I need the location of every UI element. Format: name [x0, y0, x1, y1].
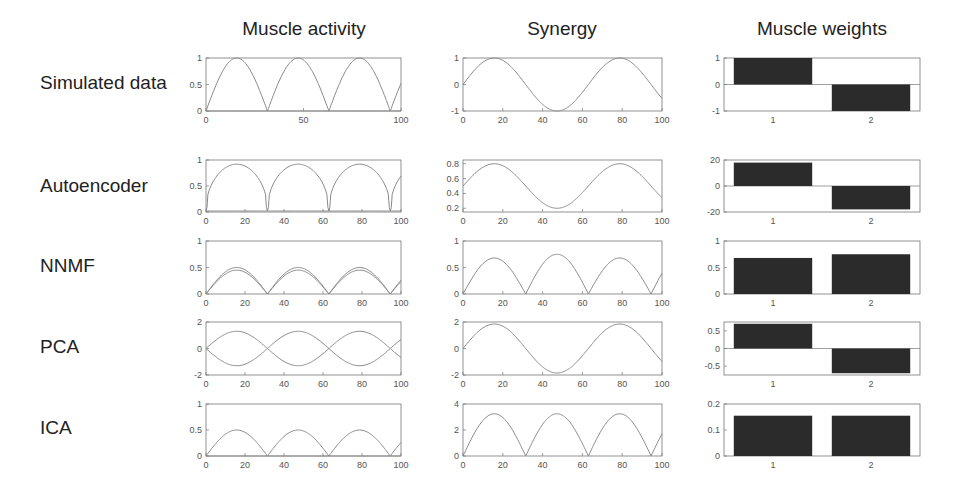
y-tick-label: 1 [715, 53, 720, 63]
y-tick-label: 0.5 [189, 425, 202, 435]
x-tick-label: 40 [279, 460, 289, 470]
axes-box [463, 404, 662, 456]
x-tick-label: 1 [770, 298, 775, 308]
x-tick-label: 80 [357, 216, 367, 226]
bar-1 [734, 324, 812, 349]
x-tick-label: 40 [538, 298, 548, 308]
y-tick-label: 0 [454, 451, 459, 461]
bar-1 [734, 258, 812, 294]
y-tick-label: 1 [454, 236, 459, 246]
x-tick-label: 80 [617, 379, 627, 389]
y-tick-label: 1 [197, 399, 202, 409]
x-tick-label: 20 [240, 460, 250, 470]
subplot-pca-muscle-weights: -0.500.512 [704, 322, 920, 389]
x-tick-label: 2 [868, 379, 873, 389]
subplot-simulated-data-muscle-weights: -10112 [712, 53, 920, 125]
x-tick-label: 2 [868, 298, 873, 308]
x-tick-label: 1 [770, 379, 775, 389]
subplot-pca-synergy: -202020406080100 [451, 317, 670, 389]
x-tick-label: 80 [617, 216, 627, 226]
y-tick-label: 0.5 [189, 181, 202, 191]
y-tick-label: 1 [197, 155, 202, 165]
axes-box [463, 58, 662, 111]
y-tick-label: 0.8 [446, 159, 459, 169]
y-tick-label: 0 [715, 451, 720, 461]
subplot-ica-synergy: 024020406080100 [454, 399, 670, 470]
x-tick-label: 100 [654, 216, 669, 226]
y-tick-label: 0.5 [189, 80, 202, 90]
x-tick-label: 50 [298, 115, 308, 125]
x-tick-label: 80 [617, 298, 627, 308]
x-tick-label: 100 [654, 379, 669, 389]
bar-1 [734, 58, 812, 85]
y-tick-label: 0 [454, 344, 459, 354]
bar-2 [832, 349, 910, 374]
y-tick-label: 1 [197, 236, 202, 246]
y-tick-label: 2 [454, 425, 459, 435]
bar-2 [832, 254, 910, 294]
subplot-autoencoder-muscle-activity: 00.51020406080100 [189, 155, 408, 226]
y-tick-label: 0.4 [446, 188, 459, 198]
x-tick-label: 0 [460, 216, 465, 226]
x-tick-label: 20 [498, 115, 508, 125]
subplot-nnmf-muscle-activity: 00.51020406080100 [189, 236, 408, 308]
x-tick-label: 1 [770, 115, 775, 125]
axes-box [463, 241, 662, 294]
bar-2 [832, 416, 910, 456]
x-tick-label: 20 [240, 298, 250, 308]
x-tick-label: 80 [357, 460, 367, 470]
y-tick-label: 0 [197, 106, 202, 116]
y-tick-label: 1 [715, 236, 720, 246]
x-tick-label: 0 [203, 298, 208, 308]
x-tick-label: 100 [654, 298, 669, 308]
x-tick-label: 2 [868, 216, 873, 226]
y-tick-label: 1 [197, 53, 202, 63]
x-tick-label: 80 [617, 115, 627, 125]
y-tick-label: -2 [194, 370, 202, 380]
y-tick-label: -0.5 [704, 361, 720, 371]
x-tick-label: 0 [203, 216, 208, 226]
x-tick-label: 60 [577, 379, 587, 389]
x-tick-label: 20 [240, 216, 250, 226]
x-tick-label: 0 [460, 379, 465, 389]
subplot-pca-muscle-activity: -202020406080100 [194, 317, 409, 389]
x-tick-label: 100 [393, 460, 408, 470]
y-tick-label: -1 [712, 106, 720, 116]
y-tick-label: 0.5 [189, 263, 202, 273]
x-tick-label: 20 [498, 298, 508, 308]
x-tick-label: 40 [279, 298, 289, 308]
x-tick-label: 40 [538, 379, 548, 389]
x-tick-label: 60 [318, 216, 328, 226]
x-tick-label: 60 [318, 460, 328, 470]
y-tick-label: -20 [707, 207, 720, 217]
x-tick-label: 100 [654, 460, 669, 470]
y-tick-label: 0 [197, 451, 202, 461]
y-tick-label: 0.1 [707, 425, 720, 435]
x-tick-label: 100 [654, 115, 669, 125]
subplot-nnmf-synergy: 00.51020406080100 [446, 236, 669, 308]
x-tick-label: 100 [393, 379, 408, 389]
bar-2 [832, 85, 910, 112]
x-tick-label: 0 [460, 460, 465, 470]
x-tick-label: 0 [203, 115, 208, 125]
y-tick-label: 0 [197, 207, 202, 217]
x-tick-label: 20 [498, 379, 508, 389]
x-tick-label: 0 [460, 298, 465, 308]
y-tick-label: 0.5 [707, 326, 720, 336]
y-tick-label: 20 [710, 155, 720, 165]
x-tick-label: 60 [318, 379, 328, 389]
y-tick-label: 2 [197, 317, 202, 327]
bar-1 [734, 163, 812, 186]
subplot-autoencoder-muscle-weights: -2002012 [707, 155, 920, 226]
x-tick-label: 60 [577, 298, 587, 308]
y-tick-label: 0 [454, 289, 459, 299]
axes-box [206, 322, 401, 375]
x-tick-label: 80 [357, 379, 367, 389]
axes-box [206, 58, 401, 111]
y-tick-label: 0 [197, 344, 202, 354]
y-tick-label: 1 [454, 53, 459, 63]
y-tick-label: 0.5 [707, 263, 720, 273]
y-tick-label: 0 [197, 289, 202, 299]
x-tick-label: 80 [357, 298, 367, 308]
y-tick-label: 0.2 [446, 203, 459, 213]
